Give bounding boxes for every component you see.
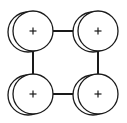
node-bottom-left [8, 74, 53, 115]
nodes-group [8, 11, 118, 115]
node-top-left [8, 11, 53, 52]
node-top-right [73, 11, 118, 52]
node-bottom-right [73, 74, 118, 115]
node-diagram [0, 0, 127, 123]
